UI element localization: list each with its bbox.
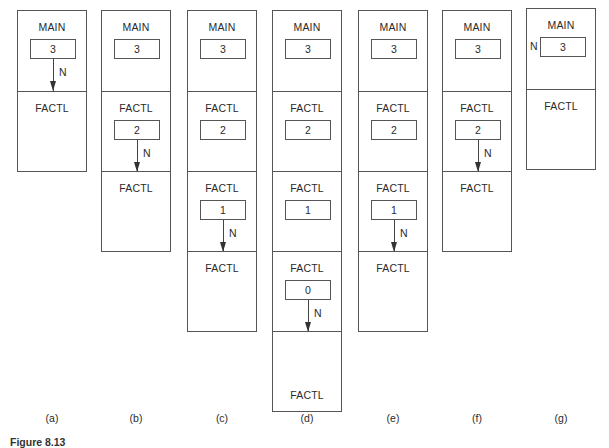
arrow-down-icon (223, 220, 224, 252)
frame-title: FACTL (273, 389, 341, 401)
stack-a: MAIN 3 N FACTL (17, 10, 87, 172)
frame-factl: FACTL 2 (188, 91, 256, 171)
frame-title: MAIN (273, 21, 341, 33)
frame-title: FACTL (273, 102, 341, 114)
frame-factl: FACTL (443, 171, 511, 251)
frame-factl: FACTL (273, 331, 341, 411)
sub-label-f: (f) (442, 412, 512, 424)
sub-label-b: (b) (101, 412, 171, 424)
frame-factl: FACTL (188, 251, 256, 331)
frame-title: MAIN (527, 19, 595, 31)
value-box: 3 (285, 39, 331, 59)
frame-factl: FACTL (359, 251, 427, 331)
frame-title: FACTL (273, 262, 341, 274)
arrow-label: N (229, 227, 237, 239)
arrow-down-icon (478, 140, 479, 172)
value-box: 0 (285, 280, 331, 300)
frame-title: FACTL (102, 182, 170, 194)
frame-factl: FACTL 2 (359, 91, 427, 171)
sub-label-e: (e) (358, 412, 428, 424)
value-box: 3 (114, 39, 160, 59)
frame-factl: FACTL 2 (273, 91, 341, 171)
arrow-down-icon (308, 300, 309, 332)
arrow-down-icon (394, 220, 395, 252)
frame-title: FACTL (273, 182, 341, 194)
frame-title: FACTL (443, 182, 511, 194)
frame-title: FACTL (359, 102, 427, 114)
frame-title: FACTL (188, 102, 256, 114)
frame-title: FACTL (527, 100, 595, 112)
frame-title: MAIN (102, 21, 170, 33)
frame-title: FACTL (102, 102, 170, 114)
value-box: 2 (455, 120, 501, 140)
arrow-label: N (143, 147, 151, 159)
frame-factl: FACTL 2 N (443, 91, 511, 171)
variable-label: N (530, 40, 538, 52)
arrow-label: N (400, 227, 408, 239)
stack-d: MAIN 3 FACTL 2 FACTL 1 FACTL 0 N FACTL (272, 10, 342, 412)
value-box: 3 (455, 39, 501, 59)
value-box: 1 (371, 200, 417, 220)
value-box: 2 (114, 120, 160, 140)
stack-b: MAIN 3 FACTL 2 N FACTL (101, 10, 171, 252)
sub-label-a: (a) (17, 412, 87, 424)
stack-c: MAIN 3 FACTL 2 FACTL 1 N FACTL (187, 10, 257, 332)
frame-title: FACTL (188, 182, 256, 194)
value-box: 1 (200, 200, 246, 220)
frame-factl: FACTL (102, 171, 170, 251)
sub-label-g: (g) (526, 412, 596, 424)
frame-main: MAIN 3 N (18, 11, 86, 91)
frame-main: MAIN 3 (188, 11, 256, 91)
frame-main: MAIN 3 (359, 11, 427, 91)
sub-label-d: (d) (272, 412, 342, 424)
arrow-label: N (59, 66, 67, 78)
stack-e: MAIN 3 FACTL 2 FACTL 1 N FACTL (358, 10, 428, 332)
frame-main: MAIN N 3 (527, 9, 595, 89)
stack-g: MAIN N 3 FACTL (526, 8, 596, 170)
arrow-label: N (314, 307, 322, 319)
frame-title: FACTL (359, 262, 427, 274)
stack-f: MAIN 3 FACTL 2 N FACTL (442, 10, 512, 252)
arrow-down-icon (137, 140, 138, 172)
frame-title: MAIN (443, 21, 511, 33)
figure-caption: Figure 8.13 (10, 436, 65, 448)
frame-factl: FACTL 2 N (102, 91, 170, 171)
value-box: 2 (285, 120, 331, 140)
frame-factl: FACTL 1 (273, 171, 341, 251)
value-box: 1 (285, 200, 331, 220)
value-box: 2 (200, 120, 246, 140)
frame-title: MAIN (18, 21, 86, 33)
arrow-down-icon (53, 59, 54, 91)
arrow-label: N (484, 147, 492, 159)
frame-title: FACTL (18, 102, 86, 114)
sub-label-c: (c) (187, 412, 257, 424)
value-box: 3 (540, 37, 586, 57)
frame-main: MAIN 3 (102, 11, 170, 91)
value-box: 2 (371, 120, 417, 140)
frame-factl: FACTL 0 N (273, 251, 341, 331)
frame-title: FACTL (188, 262, 256, 274)
frame-title: MAIN (188, 21, 256, 33)
frame-main: MAIN 3 (273, 11, 341, 91)
frame-factl: FACTL (527, 89, 595, 169)
frame-title: FACTL (443, 102, 511, 114)
value-box: 3 (371, 39, 417, 59)
frame-title: MAIN (359, 21, 427, 33)
frame-factl: FACTL 1 N (188, 171, 256, 251)
frame-main: MAIN 3 (443, 11, 511, 91)
frame-title: FACTL (359, 182, 427, 194)
frame-factl: FACTL 1 N (359, 171, 427, 251)
value-box: 3 (30, 39, 76, 59)
frame-factl: FACTL (18, 91, 86, 171)
value-box: 3 (200, 39, 246, 59)
